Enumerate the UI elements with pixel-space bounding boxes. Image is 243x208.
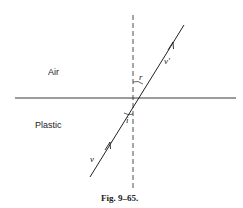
- vector-refracted-label: v': [164, 56, 171, 66]
- refraction-diagram: Air Plastic v' r i v Fig. 9–65.: [0, 0, 243, 208]
- arrow-refracted-icon: [168, 42, 174, 50]
- region-air-label: Air: [48, 67, 59, 77]
- vector-incident-label: v: [90, 154, 94, 164]
- angle-incidence-label: i: [126, 115, 129, 125]
- region-plastic-label: Plastic: [35, 120, 62, 130]
- figure-caption: Fig. 9–65.: [101, 193, 138, 203]
- angle-refraction-label: r: [139, 72, 143, 82]
